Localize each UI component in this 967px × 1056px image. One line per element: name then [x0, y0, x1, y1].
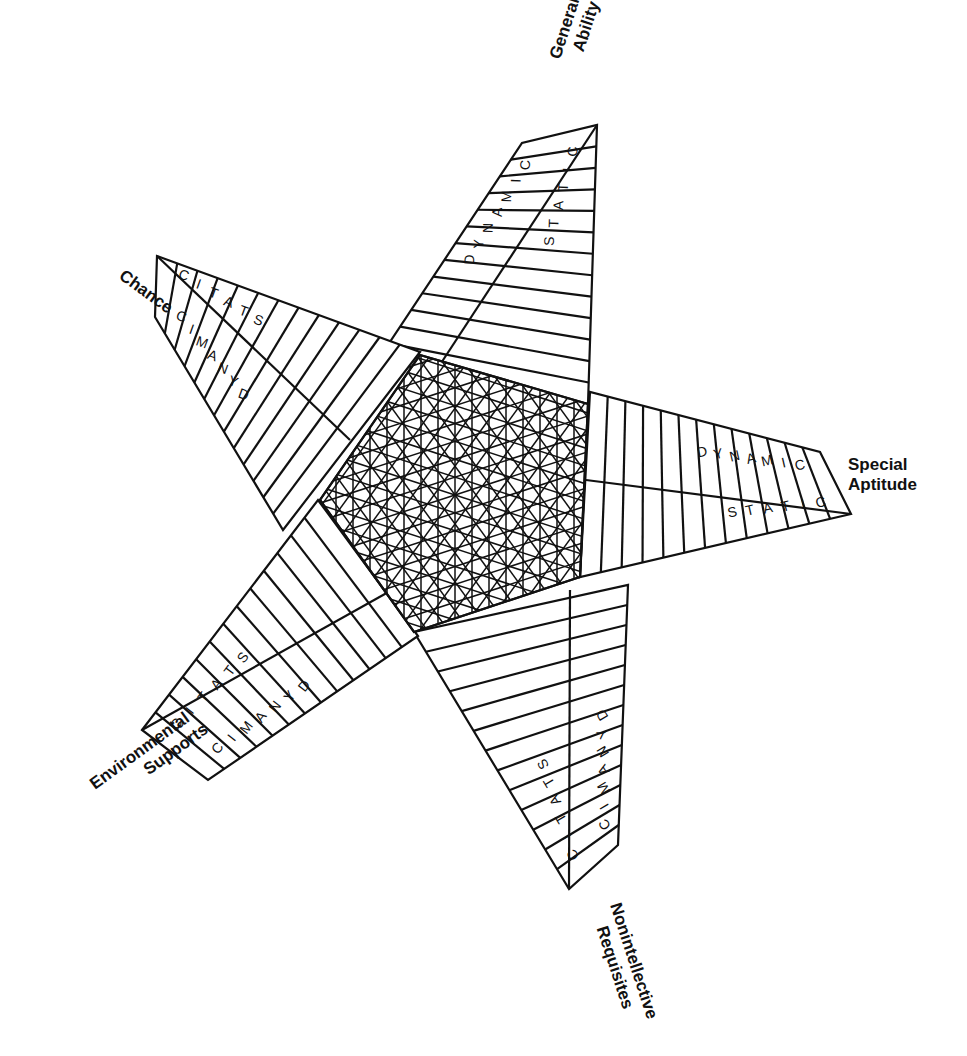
label-special-aptitude: SpecialAptitude: [848, 455, 917, 494]
dynamic-letter: I: [507, 178, 523, 182]
label-general-ability: GeneralAbility: [546, 0, 604, 67]
static-letter: C: [564, 146, 580, 157]
label-nonintellective-requisites: NonintellectiveRequisites: [587, 900, 661, 1027]
dynamic-letter: C: [517, 160, 533, 171]
static-letter: T: [555, 182, 571, 192]
star-diagram: STATICDYNAMICSTATICDYNAMICSTATICDYNAMICS…: [0, 0, 967, 1056]
dynamic-letter: D: [461, 254, 477, 265]
static-letter: S: [541, 236, 557, 246]
dynamic-letter: Y: [470, 238, 486, 249]
dynamic-letter: A: [489, 207, 505, 218]
static-letter: I: [560, 167, 576, 171]
static-letter: T: [545, 218, 561, 228]
static-letter: A: [550, 200, 566, 211]
star-diagram-canvas: STATICDYNAMICSTATICDYNAMICSTATICDYNAMICS…: [0, 0, 967, 1056]
band-rung: [643, 406, 644, 563]
dynamic-letter: N: [480, 223, 496, 234]
dynamic-letter: M: [498, 190, 514, 202]
band-divider: [569, 590, 570, 889]
